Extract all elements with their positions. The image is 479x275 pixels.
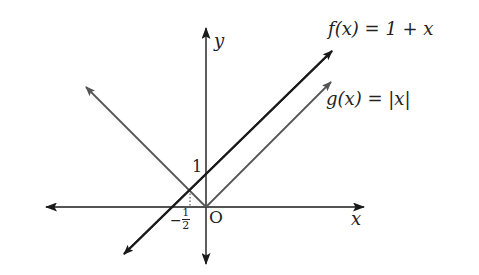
minus-sign: − — [170, 212, 182, 228]
x-tick-neg-half: − 1 2 — [170, 208, 190, 231]
fraction-one-half: 1 2 — [182, 208, 190, 231]
f-function-label: f(x) = 1 + x — [328, 18, 434, 39]
graph-f-one-plus-x — [124, 51, 332, 254]
y-tick-one: 1 — [192, 157, 202, 176]
origin-label: O — [209, 207, 223, 227]
graph-g-abs-x — [86, 82, 331, 207]
fraction-numerator: 1 — [182, 208, 189, 218]
g-function-label: g(x) = |x| — [326, 88, 411, 109]
fraction-denominator: 2 — [182, 221, 189, 231]
x-axis-label: x — [351, 208, 361, 229]
y-axis-label: y — [214, 30, 224, 51]
coordinate-plane — [0, 0, 479, 275]
